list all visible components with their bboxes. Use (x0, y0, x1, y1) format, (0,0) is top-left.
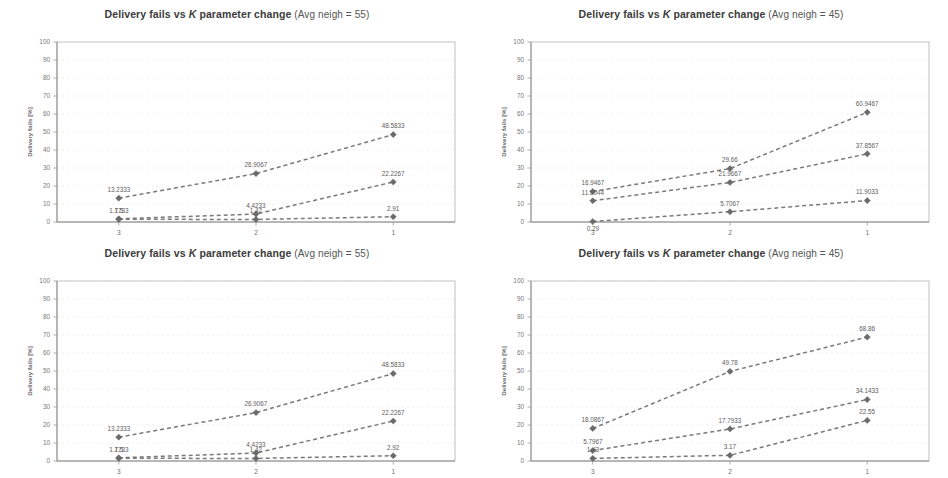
data-point-label: 0.29 (587, 225, 600, 232)
y-tick-label: 100 (513, 277, 524, 284)
y-tick-label: 20 (517, 182, 525, 189)
data-point-label: 13.2333 (107, 186, 130, 193)
x-tick-label: 3 (117, 229, 121, 236)
x-axis-ticks: 321 (117, 461, 395, 475)
y-tick-label: 100 (39, 277, 50, 284)
chart-panel-bottom-right: Delivery fails vs K parameter change (Av… (474, 239, 948, 478)
y-tick-label: 0 (520, 218, 524, 225)
y-tick-label: 0 (46, 457, 50, 464)
x-tick-label: 2 (728, 229, 732, 236)
y-tick-label: 70 (43, 331, 51, 338)
x-tick-label: 1 (865, 229, 869, 236)
y-axis-title: Delivery fails [%] (26, 346, 33, 396)
data-point-label: 1.5 (114, 207, 123, 214)
data-point-label: 17.7933 (719, 417, 742, 424)
y-tick-label: 60 (43, 349, 51, 356)
plot-area-background (57, 42, 455, 222)
y-tick-label: 20 (43, 182, 51, 189)
y-tick-label: 0 (46, 218, 50, 225)
y-tick-label: 20 (43, 421, 51, 428)
y-axis-title: Delivery fails [%] (26, 107, 33, 157)
y-tick-label: 50 (517, 128, 525, 135)
data-point-label: 22.2267 (382, 409, 405, 416)
y-axis-ticks: 0102030405060708090100 (513, 38, 531, 225)
data-point-label: 11.8044 (582, 189, 605, 196)
y-tick-label: 90 (517, 56, 525, 63)
y-axis-ticks: 0102030405060708090100 (39, 38, 57, 225)
y-axis-ticks: 0102030405060708090100 (513, 277, 531, 464)
y-tick-label: 100 (39, 38, 50, 45)
x-axis-ticks: 321 (117, 222, 395, 236)
chart-plot-bottom-right: 0102030405060708090100321Delivery fails … (474, 239, 948, 478)
y-tick-label: 100 (513, 38, 524, 45)
data-point-label: 3.17 (724, 443, 737, 450)
x-tick-label: 3 (591, 468, 595, 475)
data-point-label: 5.7967 (583, 438, 603, 445)
chart-panel-bottom-left: Delivery fails vs K parameter change (Av… (0, 239, 474, 478)
chart-plot-top-right: 0102030405060708090100321Delivery fails … (474, 0, 948, 239)
data-point-label: 1.42 (250, 446, 263, 453)
y-tick-label: 90 (517, 295, 525, 302)
y-axis-title: Delivery fails [%] (500, 107, 507, 157)
data-point-label: 26.9067 (245, 161, 268, 168)
data-point-label: 13.2333 (107, 425, 130, 432)
x-axis-ticks: 321 (591, 461, 869, 475)
plot-area-background (57, 281, 455, 461)
x-axis-ticks: 321 (591, 222, 869, 236)
y-tick-label: 80 (43, 74, 51, 81)
x-tick-label: 2 (728, 468, 732, 475)
y-tick-label: 90 (43, 56, 51, 63)
data-point-label: 48.5833 (382, 361, 405, 368)
y-tick-label: 40 (43, 385, 51, 392)
data-point-label: 22.55 (859, 408, 875, 415)
y-tick-label: 10 (43, 439, 51, 446)
data-point-label: 48.5833 (382, 122, 405, 129)
y-axis-ticks: 0102030405060708090100 (39, 277, 57, 464)
data-point-label: 68.86 (859, 325, 875, 332)
x-tick-label: 1 (865, 468, 869, 475)
y-tick-label: 80 (517, 313, 525, 320)
chart-plot-bottom-left: 0102030405060708090100321Delivery fails … (0, 239, 474, 478)
data-point-label: 26.9067 (245, 400, 268, 407)
y-tick-label: 10 (517, 439, 525, 446)
data-point-label: 1.43 (587, 446, 600, 453)
y-tick-label: 70 (517, 92, 525, 99)
chart-panel-top-right: Delivery fails vs K parameter change (Av… (474, 0, 948, 239)
data-point-label: 16.9467 (581, 179, 604, 186)
data-point-label: 29.66 (722, 156, 738, 163)
y-tick-label: 20 (517, 421, 525, 428)
y-tick-label: 10 (43, 200, 51, 207)
y-tick-label: 40 (43, 146, 51, 153)
chart-panel-top-left: Delivery fails vs K parameter change (Av… (0, 0, 474, 239)
x-tick-label: 1 (391, 229, 395, 236)
y-axis-title: Delivery fails [%] (500, 346, 507, 396)
figure-grid: Delivery fails vs K parameter change (Av… (0, 0, 948, 478)
y-tick-label: 50 (43, 367, 51, 374)
data-point-label: 1.5 (114, 446, 123, 453)
data-point-label: 21.9667 (719, 170, 742, 177)
data-point-label: 2.91 (387, 205, 400, 212)
y-tick-label: 30 (43, 164, 51, 171)
y-tick-label: 30 (43, 403, 51, 410)
data-point-label: 60.9467 (856, 100, 879, 107)
y-tick-label: 40 (517, 146, 525, 153)
y-tick-label: 50 (517, 367, 525, 374)
data-point-label: 11.9033 (856, 188, 879, 195)
data-point-label: 34.1433 (856, 387, 879, 394)
x-tick-label: 3 (117, 468, 121, 475)
y-tick-label: 50 (43, 128, 51, 135)
data-point-label: 5.7067 (720, 200, 740, 207)
data-point-label: 37.8567 (856, 142, 879, 149)
y-tick-label: 30 (517, 403, 525, 410)
x-tick-label: 2 (254, 229, 258, 236)
y-tick-label: 60 (517, 349, 525, 356)
y-tick-label: 70 (517, 331, 525, 338)
y-tick-label: 90 (43, 295, 51, 302)
x-tick-label: 2 (254, 468, 258, 475)
y-tick-label: 80 (43, 313, 51, 320)
y-tick-label: 10 (517, 200, 525, 207)
data-point-label: 18.0867 (581, 416, 604, 423)
chart-plot-top-left: 0102030405060708090100321Delivery fails … (0, 0, 474, 239)
data-point-label: 22.2267 (382, 170, 405, 177)
y-tick-label: 70 (43, 92, 51, 99)
